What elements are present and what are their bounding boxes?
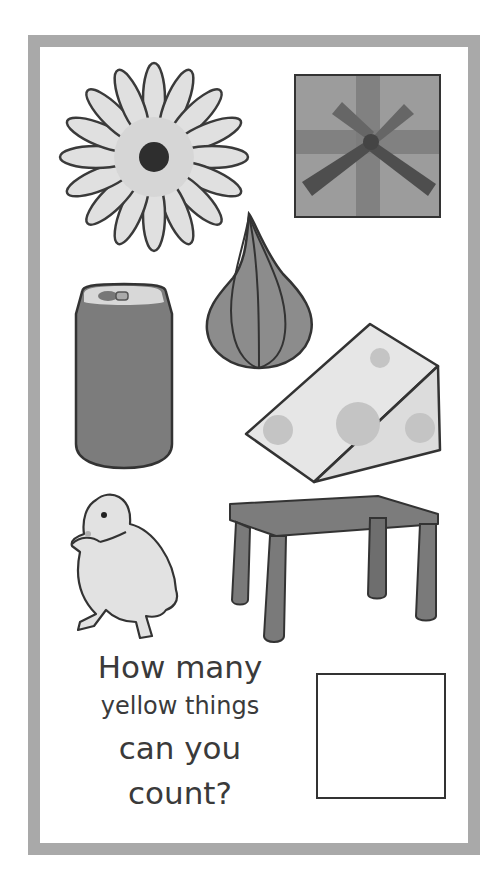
gift-box-icon	[294, 74, 441, 218]
table-icon	[226, 490, 446, 642]
duckling-icon	[66, 490, 186, 640]
question-line-1: How many	[60, 648, 300, 686]
soda-can-icon	[72, 284, 176, 470]
question-text: How many yellow things can you count?	[60, 648, 300, 816]
answer-box[interactable]	[316, 673, 446, 799]
question-line-3: can you	[60, 726, 300, 770]
question-line-2: yellow things	[60, 686, 300, 726]
question-line-4: count?	[60, 770, 300, 816]
cheese-wedge-icon	[244, 322, 440, 482]
